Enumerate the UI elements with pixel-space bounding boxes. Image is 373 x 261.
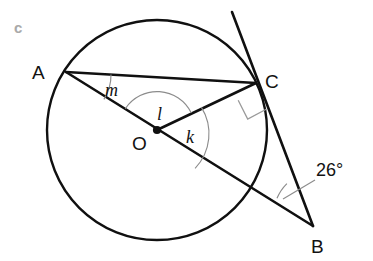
center-point-dot [153,126,161,134]
angle-label-26: 26° [316,160,343,180]
angle-label-k: k [186,127,195,147]
secant-a-o-b [66,72,313,226]
angle-arc-b [277,184,287,199]
chord-ac [66,72,256,83]
tangent-line-cb [232,12,313,226]
right-angle-icon [238,100,266,119]
point-label-b: B [311,236,324,257]
angle-label-m: m [105,80,118,100]
leader-line-26 [283,180,315,199]
circle-theorem-diagram: c A C O B m l k 26° [0,0,373,261]
part-label: c [14,19,22,36]
point-label-o: O [132,133,147,154]
geometry-figure: c A C O B m l k 26° [0,0,373,261]
point-label-a: A [32,62,45,83]
point-label-c: C [265,71,279,92]
angle-label-l: l [157,104,162,124]
